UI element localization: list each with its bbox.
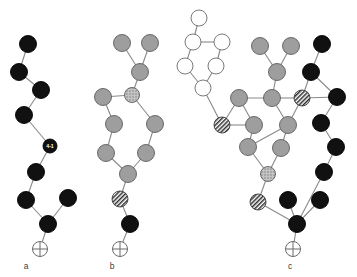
node-c25[interactable] — [280, 192, 297, 209]
node-b6[interactable] — [147, 116, 164, 133]
panel-caption-c: c — [288, 261, 293, 271]
node-c12[interactable] — [264, 90, 281, 107]
node-c19[interactable] — [240, 139, 257, 156]
node-c1[interactable] — [185, 34, 201, 50]
nodes-a: 4-1 — [11, 36, 77, 233]
panel-a: 4-1a — [11, 36, 77, 272]
node-a1[interactable] — [11, 64, 28, 81]
node-a7[interactable] — [60, 190, 77, 207]
node-b8[interactable] — [138, 145, 155, 162]
node-c7[interactable] — [283, 38, 300, 55]
node-b3[interactable] — [95, 89, 112, 106]
node-c23[interactable] — [316, 164, 333, 181]
node-c15[interactable] — [214, 117, 230, 133]
node-c14[interactable] — [329, 89, 346, 106]
panel-caption-b: b — [110, 261, 115, 271]
panel-c: c — [177, 10, 346, 271]
node-b11[interactable] — [122, 216, 139, 233]
node-a0[interactable] — [20, 36, 37, 53]
node-c20[interactable] — [273, 140, 290, 157]
node-c5[interactable] — [195, 80, 211, 96]
node-a8[interactable] — [40, 216, 57, 233]
panels-layer: 4-1abc — [11, 10, 346, 271]
node-c11[interactable] — [231, 90, 248, 107]
node-c13[interactable] — [294, 90, 310, 106]
node-a2[interactable] — [33, 82, 50, 99]
node-c6[interactable] — [252, 38, 269, 55]
node-a4[interactable] — [43, 139, 57, 153]
node-c18[interactable] — [313, 115, 330, 132]
node-b5[interactable] — [106, 116, 123, 133]
node-c10[interactable] — [303, 64, 320, 81]
node-c2[interactable] — [214, 34, 230, 50]
nodes-b — [95, 35, 164, 233]
node-c4[interactable] — [208, 58, 224, 74]
node-b2[interactable] — [132, 64, 149, 81]
node-c3[interactable] — [177, 58, 193, 74]
crossed-circle-root — [113, 242, 128, 257]
node-c27[interactable] — [289, 216, 306, 233]
node-c21[interactable] — [328, 139, 345, 156]
node-b10[interactable] — [112, 191, 128, 207]
nodes-c — [177, 10, 346, 233]
node-b0[interactable] — [114, 35, 131, 52]
node-a5[interactable] — [28, 164, 45, 181]
crossed-circle-root — [286, 242, 301, 257]
node-b7[interactable] — [98, 145, 115, 162]
network-diagram: 4-1abc — [0, 0, 357, 277]
node-a3[interactable] — [16, 107, 33, 124]
node-b9[interactable] — [120, 166, 137, 183]
figure-root: 4-1abc — [0, 0, 357, 277]
node-b4[interactable] — [125, 88, 140, 103]
node-c8[interactable] — [269, 64, 286, 81]
node-c17[interactable] — [280, 117, 297, 134]
node-c0[interactable] — [191, 10, 207, 26]
node-c22[interactable] — [261, 167, 276, 182]
node-c26[interactable] — [312, 192, 329, 209]
node-c16[interactable] — [246, 117, 263, 134]
node-c24[interactable] — [250, 194, 266, 210]
crossed-circle-root — [33, 242, 48, 257]
node-c9[interactable] — [314, 36, 331, 53]
panel-b: b — [95, 35, 164, 272]
node-b1[interactable] — [142, 35, 159, 52]
panel-caption-a: a — [24, 261, 29, 271]
node-a6[interactable] — [18, 192, 35, 209]
